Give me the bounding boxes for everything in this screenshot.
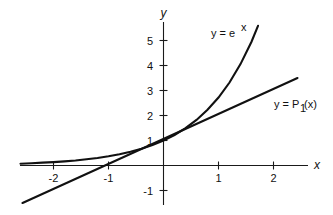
x-tick-label-1: 1 <box>215 172 221 184</box>
figure-container: -2 -1 1 2 5 4 3 2 1 -1 y x y = e x y = P… <box>0 0 333 215</box>
curve-tangent-line <box>23 78 298 203</box>
y-tick-label-4: 4 <box>147 60 153 72</box>
curve-label-exponential-main: y = e <box>211 27 235 39</box>
curve-label-exponential: y = e x <box>211 21 247 39</box>
y-tick-label-neg1: -1 <box>143 185 153 197</box>
y-tick-label-3: 3 <box>147 85 153 97</box>
y-tick-label-2: 2 <box>147 110 153 122</box>
x-tick-label-neg2: -2 <box>49 172 59 184</box>
y-tick-label-1: 1 <box>147 135 153 147</box>
x-tick-label-neg1: -1 <box>104 172 114 184</box>
x-axis-label: x <box>313 158 321 172</box>
curve-label-exponential-exponent: x <box>241 21 247 33</box>
curve-label-tangent-main: y = P <box>274 98 299 110</box>
curve-label-tangent: y = P 1 (x) <box>274 98 317 114</box>
plot-canvas: -2 -1 1 2 5 4 3 2 1 -1 y x y = e x y = P… <box>0 0 333 215</box>
y-tick-label-5: 5 <box>147 35 153 47</box>
y-axis-label: y <box>160 6 168 20</box>
x-tick-label-2: 2 <box>270 172 276 184</box>
curve-exponential <box>21 26 259 164</box>
curve-label-tangent-suffix: (x) <box>304 98 317 110</box>
